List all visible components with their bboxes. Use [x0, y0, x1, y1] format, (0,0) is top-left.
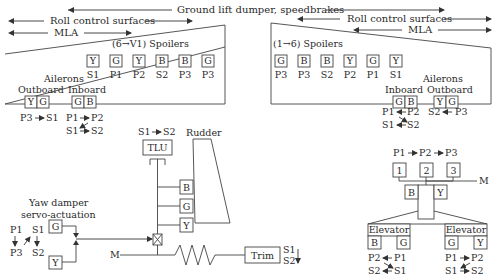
mla-label-left: MLA [54, 27, 79, 38]
arrow-left-icon [68, 7, 74, 13]
mla-label-right: MLA [408, 24, 433, 35]
motor-label: 2 [423, 165, 429, 176]
computer-label: P1 [367, 69, 379, 80]
computer-label: P2 [91, 112, 103, 123]
roll-control-bar-left: Roll control surfaces [8, 15, 192, 26]
hydraulic-system-label: G [74, 96, 82, 107]
computer-label: P2 [407, 106, 419, 117]
computer-label: P1 [66, 112, 78, 123]
computer-label: P1 [110, 69, 122, 80]
computer-label: S2 [32, 247, 45, 258]
computer-label: P2 [368, 252, 380, 263]
computer-label: S2 [156, 69, 169, 80]
hydraulic-system-label: Y [346, 55, 354, 66]
computer-label: S1 [138, 126, 151, 137]
mechanical-input-label: M [110, 249, 120, 260]
hydraulic-system-label: B [324, 55, 331, 66]
computer-label: P3 [445, 147, 457, 158]
computer-label: S1 [390, 69, 403, 80]
computer-label: S1 [46, 112, 59, 123]
computer-label: S1 [87, 69, 100, 80]
left-spoiler-2: GP1 [110, 55, 122, 80]
hydraulic-system-label: B [371, 237, 378, 248]
hydraulic-system-label: B [301, 55, 308, 66]
right-spoiler-5: GP1 [367, 55, 379, 80]
hydraulic-system-label: Y [392, 55, 400, 66]
hydraulic-system-label: G [183, 201, 191, 212]
rudder-system: S1 S2 TLU Rudder BGY M Trim S1 S2 [76, 126, 298, 266]
hydraulic-system-label: G [277, 55, 285, 66]
computer-label: S2 [471, 265, 484, 276]
mla-bar-left: MLA [8, 27, 131, 38]
left-inboard-actuators: G B [72, 96, 96, 108]
hydraulic-system-label: Y [476, 237, 484, 248]
right-outboard-label: Outboard [427, 84, 473, 95]
right-spoiler-3: BS2 [321, 55, 334, 80]
rudder-actuator: G [158, 199, 194, 213]
tlu-label: TLU [147, 142, 167, 153]
hydraulic-system-label: B [159, 55, 166, 66]
pitch-system: P1 P2 P3 123 M B Y Elevator B G P2 P1 S2… [368, 147, 489, 276]
computer-label: S2 [283, 255, 296, 266]
computer-label: S2 [163, 126, 176, 137]
computer-label: S1 [445, 265, 458, 276]
elevator-label: Elevator [446, 224, 487, 235]
left-outboard-actuators: Y G [25, 96, 49, 108]
mechanical-input-label: M [479, 175, 489, 186]
feel-spring [120, 245, 245, 265]
hydraulic-system-label: G [395, 96, 403, 107]
left-spoiler-6: GP3 [202, 55, 214, 80]
trim-label: Trim [251, 250, 274, 261]
computer-label: P2 [133, 69, 145, 80]
left-spoiler-4: BS2 [156, 55, 169, 80]
computer-label: P3 [455, 106, 467, 117]
computer-label: P3 [20, 112, 32, 123]
computer-label: P3 [298, 69, 310, 80]
computer-label: P1 [10, 224, 22, 235]
rudder-label: Rudder [186, 127, 222, 138]
computer-label: S2 [91, 125, 104, 136]
hydraulic-system-label: B [183, 182, 190, 193]
yaw-damper-title: Yaw damper [28, 197, 89, 208]
left-inboard-label: Inboard [68, 84, 106, 95]
left-outboard-label: Outboard [18, 84, 64, 95]
flight-control-diagram: Ground lift dumper, speedbrakes Roll con… [0, 0, 494, 276]
computer-label: P3 [179, 69, 191, 80]
right-wing: (1→6) Spoilers GP3BP3BS2YP2GP1YS1 Ailero… [271, 23, 491, 130]
ground-lift-label: Ground lift dumper, speedbrakes [177, 4, 344, 15]
motor-label: 3 [450, 165, 456, 176]
hydraulic-system-label: G [400, 237, 408, 248]
thsa-motor-1: 1 [393, 163, 406, 177]
left-wing: (6→V1) Spoilers YS1GP1YP2BS2BP3GP3 Ailer… [5, 25, 225, 136]
left-spoiler-5: BP3 [179, 55, 191, 80]
computer-label: S1 [66, 125, 79, 136]
thsa-motor-2: 2 [420, 163, 433, 177]
hydraulic-system-label: G [448, 237, 456, 248]
computer-label: S2 [428, 106, 441, 117]
left-spoiler-1: YS1 [87, 55, 100, 80]
right-spoiler-6: YS1 [390, 55, 403, 80]
hydraulic-system-label: G [369, 55, 377, 66]
rudder-actuator: Y [158, 218, 194, 232]
computer-label: S2 [321, 69, 334, 80]
motor-bus [399, 177, 477, 185]
left-spoiler-3: YP2 [133, 55, 145, 80]
hydraulic-system-label: Y [182, 220, 190, 231]
computer-label: P1 [382, 106, 394, 117]
right-ailerons-label: Ailerons [422, 73, 463, 84]
right-spoiler-4: YP2 [344, 55, 356, 80]
yaw-damper: Yaw damper servo-actuation G Y P1 P3 S1 … [10, 197, 96, 269]
computer-label: P2 [471, 252, 483, 263]
computer-label: P3 [202, 69, 214, 80]
computer-label: P2 [344, 69, 356, 80]
hydraulic-system-label: Y [135, 55, 143, 66]
hydraulic-system-label: B [87, 96, 94, 107]
computer-label: P3 [275, 69, 287, 80]
computer-label: S2 [368, 265, 381, 276]
computer-label: P1 [393, 147, 405, 158]
right-inboard-label: Inboard [385, 84, 423, 95]
roll-control-label-left: Roll control surfaces [50, 15, 155, 26]
hydraulic-system-label: Y [27, 96, 35, 107]
yaw-damper-subtitle: servo-actuation [21, 209, 96, 220]
right-spoiler-1: GP3 [275, 55, 287, 80]
